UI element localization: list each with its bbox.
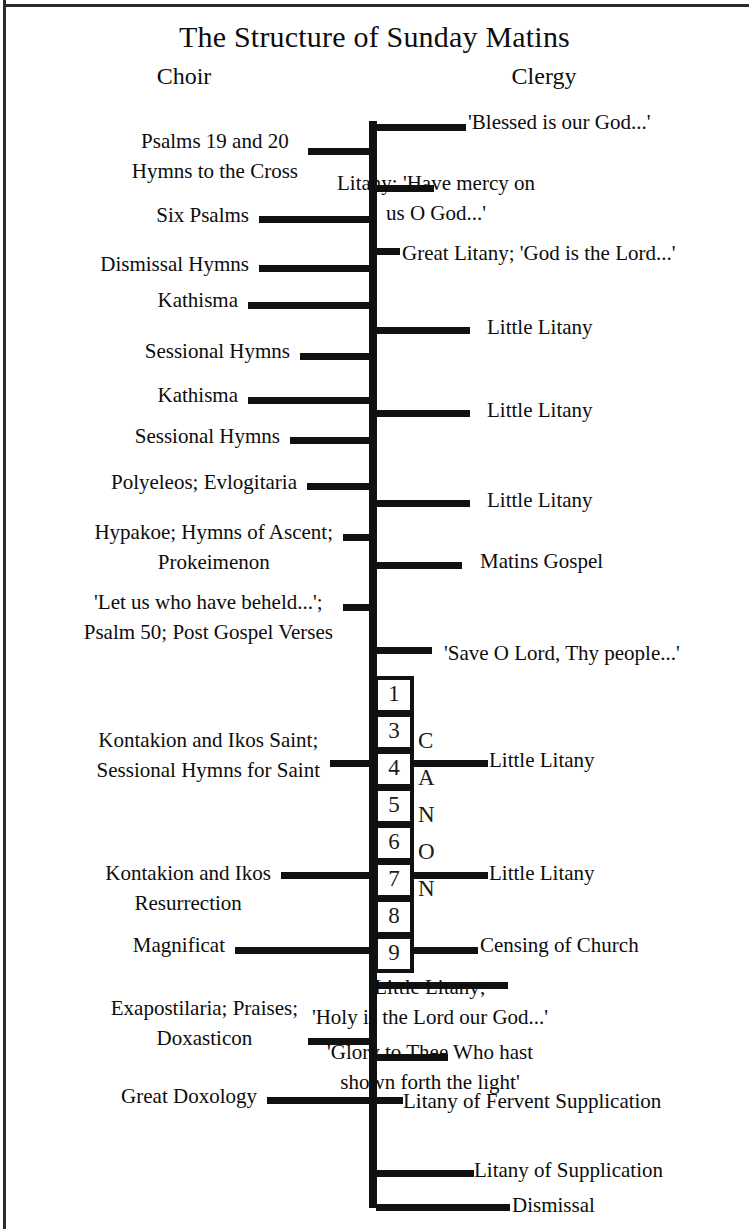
tick-left-11	[281, 872, 370, 879]
tick-right-13	[376, 1097, 403, 1104]
choir-item-7: Polyeleos; Evlogitaria	[111, 467, 297, 497]
clergy-item-14: Litany of Supplication	[474, 1155, 663, 1185]
label-line: Exapostilaria; Praises;	[111, 993, 298, 1023]
choir-item-11: Kontakion and IkosResurrection	[105, 858, 271, 918]
canon-ode-box-5: 5	[374, 787, 414, 825]
tick-right-10	[414, 947, 478, 954]
label-line: Psalm 50; Post Gospel Verses	[84, 617, 333, 647]
tick-right-4	[376, 410, 470, 417]
label-line: Polyeleos; Evlogitaria	[111, 467, 297, 497]
tick-left-7	[307, 483, 370, 490]
canon-ode-box-4: 4	[374, 750, 414, 788]
label-line: 'Let us who have beheld...';	[84, 587, 333, 617]
choir-item-10: Kontakion and Ikos Saint;Sessional Hymns…	[97, 725, 320, 785]
column-heading-clergy: Clergy	[458, 62, 630, 90]
tick-right-0	[376, 124, 466, 131]
page-border-left	[3, 0, 6, 1229]
tick-left-0	[308, 148, 370, 155]
choir-item-6: Sessional Hymns	[135, 421, 280, 451]
canon-letter-3: O	[418, 840, 440, 863]
label-line: Doxasticon	[111, 1023, 298, 1053]
label-line: Six Psalms	[156, 200, 249, 230]
clergy-item-7: 'Save O Lord, Thy people...'	[444, 638, 680, 668]
label-line: Little Litany;	[312, 972, 548, 1002]
label-line: Litany: 'Have mercy on	[337, 168, 535, 198]
tick-left-5	[248, 397, 370, 404]
matins-structure-diagram: The Structure of Sunday Matins Choir Cle…	[0, 0, 749, 1229]
tick-left-9	[343, 604, 370, 611]
canon-ode-box-6: 6	[374, 824, 414, 862]
label-line: Kathisma	[158, 380, 238, 410]
clergy-item-9: Little Litany	[489, 858, 595, 888]
label-line: Dismissal	[512, 1190, 595, 1220]
tick-left-10	[330, 760, 370, 767]
label-line: Little Litany	[487, 395, 593, 425]
page-title: The Structure of Sunday Matins	[0, 20, 749, 54]
column-heading-choir: Choir	[98, 62, 270, 90]
choir-item-0: Psalms 19 and 20Hymns to the Cross	[132, 126, 298, 186]
tick-right-2	[376, 248, 400, 255]
canon-ode-box-9: 9	[374, 935, 414, 973]
clergy-item-1: Litany: 'Have mercy onus O God...'	[337, 168, 535, 228]
label-line: Little Litany	[487, 312, 593, 342]
label-line: Censing of Church	[480, 930, 639, 960]
label-line: Hypakoe; Hymns of Ascent;	[94, 517, 333, 547]
label-line: Prokeimenon	[94, 547, 333, 577]
clergy-item-3: Little Litany	[487, 312, 593, 342]
tick-left-3	[248, 302, 370, 309]
label-line: Magnificat	[133, 930, 225, 960]
tick-right-6	[376, 562, 462, 569]
label-line: 'Holy is the Lord our God...'	[312, 1002, 548, 1032]
canon-ode-box-3: 3	[374, 713, 414, 751]
label-line: Little Litany	[487, 485, 593, 515]
choir-item-1: Six Psalms	[156, 200, 249, 230]
choir-item-2: Dismissal Hymns	[100, 249, 249, 279]
clergy-item-5: Little Litany	[487, 485, 593, 515]
canon-letter-1: A	[418, 766, 440, 789]
canon-ode-box-1: 1	[374, 676, 414, 714]
clergy-item-13: Litany of Fervent Supplication	[403, 1086, 661, 1116]
label-line: 'Glory to Thee Who hast	[327, 1037, 533, 1067]
label-line: Sessional Hymns for Saint	[97, 755, 320, 785]
clergy-item-8: Little Litany	[489, 745, 595, 775]
tick-left-12	[235, 947, 370, 954]
label-line: Litany of Supplication	[474, 1155, 663, 1185]
choir-item-4: Sessional Hymns	[145, 336, 290, 366]
label-line: Litany of Fervent Supplication	[403, 1086, 661, 1116]
clergy-item-0: 'Blessed is our God...'	[468, 107, 651, 137]
label-line: Hymns to the Cross	[132, 156, 298, 186]
tick-left-4	[300, 353, 370, 360]
canon-ode-box-8: 8	[374, 898, 414, 936]
label-line: Sessional Hymns	[135, 421, 280, 451]
tick-right-14	[376, 1170, 474, 1177]
choir-item-14: Great Doxology	[121, 1081, 257, 1111]
choir-item-12: Magnificat	[133, 930, 225, 960]
label-line: 'Save O Lord, Thy people...'	[444, 638, 680, 668]
clergy-item-6: Matins Gospel	[480, 546, 603, 576]
clergy-item-11: Little Litany;'Holy is the Lord our God.…	[312, 972, 548, 1032]
choir-item-3: Kathisma	[158, 285, 238, 315]
canon-ode-box-7: 7	[374, 861, 414, 899]
tick-right-15	[376, 1204, 510, 1211]
label-line: Little Litany	[489, 745, 595, 775]
tick-left-2	[259, 265, 370, 272]
clergy-item-15: Dismissal	[512, 1190, 595, 1220]
choir-item-8: Hypakoe; Hymns of Ascent;Prokeimenon	[94, 517, 333, 577]
label-line: 'Blessed is our God...'	[468, 107, 651, 137]
label-line: Dismissal Hymns	[100, 249, 249, 279]
label-line: Psalms 19 and 20	[132, 126, 298, 156]
tick-left-8	[343, 534, 370, 541]
choir-item-9: 'Let us who have beheld...';Psalm 50; Po…	[84, 587, 333, 647]
label-line: Sessional Hymns	[145, 336, 290, 366]
page-border-top	[3, 4, 749, 7]
choir-item-5: Kathisma	[158, 380, 238, 410]
label-line: Matins Gospel	[480, 546, 603, 576]
choir-item-13: Exapostilaria; Praises;Doxasticon	[111, 993, 298, 1053]
clergy-item-4: Little Litany	[487, 395, 593, 425]
tick-left-6	[290, 437, 370, 444]
clergy-item-10: Censing of Church	[480, 930, 639, 960]
label-line: Kontakion and Ikos	[105, 858, 271, 888]
canon-letter-4: N	[418, 877, 440, 900]
label-line: Kontakion and Ikos Saint;	[97, 725, 320, 755]
tick-right-3	[376, 327, 470, 334]
